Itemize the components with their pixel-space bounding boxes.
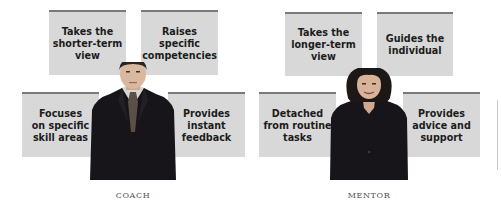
box-line: advice and [412, 120, 471, 132]
box-line: instant [182, 120, 231, 132]
mentor-box-guides: Guides the individual [377, 12, 453, 76]
box-line: Raises specific [142, 26, 217, 50]
box-line: view [291, 51, 356, 63]
box-line: view [53, 50, 123, 62]
box-line: competencies [142, 50, 217, 62]
box-line: on specific [32, 120, 90, 132]
box-line: from routine [263, 120, 331, 132]
box-line: feedback [182, 132, 231, 144]
mentor-label: MENTOR [329, 191, 409, 200]
box-line: shorter-term [53, 38, 123, 50]
mentor-photo [328, 68, 410, 182]
box-line: skill areas [32, 132, 90, 144]
box-line: Guides the [386, 33, 444, 45]
box-line: tasks [263, 132, 331, 144]
box-line: Takes the [291, 27, 356, 39]
box-line: support [412, 132, 471, 144]
coach-photo [88, 62, 178, 182]
coach-label: COACH [93, 191, 173, 200]
box-line: Focuses [32, 108, 90, 120]
coach-box-feedback: Provides instant feedback [168, 92, 245, 157]
box-line: individual [386, 45, 444, 57]
edge-divider [497, 100, 498, 170]
box-line: Provides [182, 108, 231, 120]
box-line: longer-term [291, 39, 356, 51]
mentor-box-longer-term: Takes the longer-term view [285, 12, 362, 76]
box-line: Takes the [53, 26, 123, 38]
mentor-box-detached: Detached from routine tasks [259, 92, 336, 157]
mentor-box-advice: Provides advice and support [403, 92, 480, 157]
box-line: Detached [263, 108, 331, 120]
box-line: Provides [412, 108, 471, 120]
